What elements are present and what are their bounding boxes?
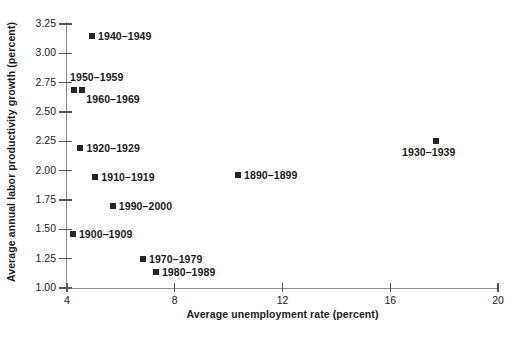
x-tick-label: 16 [370, 294, 410, 306]
data-point-label: 1890–1899 [244, 169, 297, 181]
y-tick-label: 2.50 [28, 105, 56, 117]
data-point-label: 1900–1909 [79, 228, 132, 240]
x-axis-title: Average unemployment rate (percent) [67, 308, 498, 320]
scatter-chart: Average annual labor productivity growth… [0, 0, 528, 339]
y-tick-mark [59, 199, 72, 200]
y-tick-label: 1.25 [28, 252, 56, 264]
y-tick-mark [59, 141, 72, 142]
data-point-marker [92, 174, 98, 180]
y-tick-label: 2.00 [28, 164, 56, 176]
y-tick-label: 1.50 [28, 222, 56, 234]
x-tick-mark [390, 283, 391, 292]
data-point-marker [89, 33, 95, 39]
data-point-marker [433, 138, 439, 144]
y-tick-mark [59, 258, 72, 259]
y-tick-label: 3.25 [28, 17, 56, 29]
x-tick-label: 8 [155, 294, 195, 306]
data-point-label: 1940–1949 [98, 30, 151, 42]
data-point-label: 1960–1969 [86, 93, 139, 105]
data-point-label: 1950–1959 [70, 71, 123, 83]
y-tick-mark [59, 111, 72, 112]
y-tick-label: 3.00 [28, 46, 56, 58]
data-point-label: 1980–1989 [162, 266, 215, 278]
y-tick-mark [59, 229, 72, 230]
data-point-label: 1920–1929 [86, 142, 139, 154]
data-point-marker [153, 269, 159, 275]
x-tick-mark [66, 283, 67, 292]
y-tick-label: 2.25 [28, 134, 56, 146]
y-axis-title: Average annual labor productivity growth… [2, 2, 20, 302]
data-point-marker [71, 87, 77, 93]
x-tick-mark [497, 283, 498, 292]
data-point-label: 1990–2000 [119, 200, 172, 212]
x-tick-mark [282, 283, 283, 292]
data-point-marker [140, 256, 146, 262]
data-point-marker [79, 87, 85, 93]
x-tick-label: 4 [47, 294, 87, 306]
data-point-marker [110, 203, 116, 209]
y-tick-mark [59, 23, 72, 24]
data-point-label: 1910–1919 [101, 171, 154, 183]
y-tick-mark [59, 170, 72, 171]
data-point-label: 1930–1939 [402, 146, 455, 158]
x-tick-mark [174, 283, 175, 292]
y-tick-label: 2.75 [28, 76, 56, 88]
y-tick-label: 1.75 [28, 193, 56, 205]
y-axis-line [66, 22, 67, 290]
data-point-marker [70, 231, 76, 237]
x-tick-label: 20 [478, 294, 518, 306]
data-point-marker [235, 172, 241, 178]
y-tick-label: 1.00 [28, 281, 56, 293]
y-tick-mark [59, 53, 72, 54]
data-point-label: 1970–1979 [149, 253, 202, 265]
data-point-marker [77, 145, 83, 151]
x-tick-label: 12 [263, 294, 303, 306]
